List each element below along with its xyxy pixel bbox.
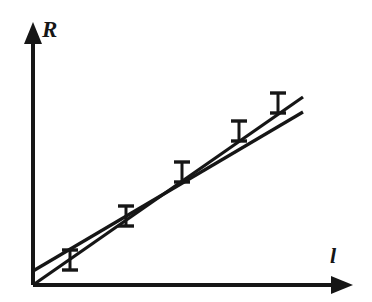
error-bars-group — [62, 93, 286, 270]
fit-line-with-intercept — [33, 112, 303, 271]
y-axis-label: R — [42, 18, 57, 41]
figure-canvas: R l — [0, 0, 372, 302]
y-axis-arrow-icon — [24, 22, 42, 44]
plot-svg — [0, 0, 372, 302]
fit-lines-group — [33, 97, 303, 285]
x-axis-arrow-icon — [331, 276, 353, 294]
x-axis-label: l — [330, 245, 336, 267]
axes-group — [24, 22, 353, 294]
